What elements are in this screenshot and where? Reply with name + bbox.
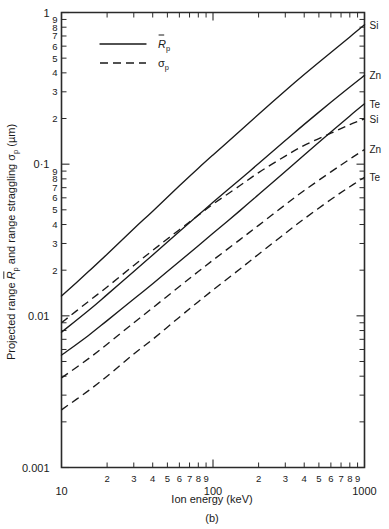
y-tick-label: 5 bbox=[52, 53, 57, 64]
x-tick-label: 3 bbox=[131, 473, 136, 484]
x-tick-label: 4 bbox=[150, 473, 155, 484]
x-tick-label: 6 bbox=[328, 473, 333, 484]
series-label-zn-straggling: Zn bbox=[370, 144, 382, 155]
y-tick-label: 9 bbox=[52, 14, 57, 25]
y-tick-label: 2 bbox=[52, 265, 57, 276]
y-tick-label: 4 bbox=[52, 67, 57, 78]
figure-panel-b: 2345678923456789101001000 23456789234567… bbox=[0, 0, 389, 529]
x-tick-label-major: 1000 bbox=[352, 485, 376, 497]
y-tick-label: 3 bbox=[52, 86, 57, 97]
x-tick-label: 5 bbox=[316, 473, 321, 484]
x-tick-label-major: 10 bbox=[55, 485, 67, 497]
y-tick-label: 5 bbox=[52, 204, 57, 215]
series-label-si-range: Si bbox=[370, 20, 379, 31]
y-tick-label-major: 0.001 bbox=[22, 462, 50, 474]
series-label-zn-range: Zn bbox=[370, 70, 382, 81]
y-tick-label: 6 bbox=[52, 41, 57, 52]
series-label-si-straggling: Si bbox=[370, 114, 379, 125]
y-tick-label: 2 bbox=[52, 113, 57, 124]
y-tick-label: 6 bbox=[52, 192, 57, 203]
x-tick-label: 7 bbox=[338, 473, 343, 484]
y-tick-label: 3 bbox=[52, 238, 57, 249]
x-tick-label: 3 bbox=[283, 473, 288, 484]
series-label-te-straggling: Te bbox=[370, 172, 381, 183]
x-tick-label: 9 bbox=[355, 473, 360, 484]
x-tick-label: 8 bbox=[347, 473, 352, 484]
log-log-chart: 2345678923456789101001000 23456789234567… bbox=[0, 0, 389, 529]
y-tick-label-major: 0·1 bbox=[34, 158, 50, 170]
panel-caption: (b) bbox=[205, 512, 218, 524]
x-axis-title: Ion energy (keV) bbox=[171, 493, 252, 505]
chart-background bbox=[0, 0, 389, 529]
x-tick-label: 7 bbox=[187, 473, 192, 484]
x-tick-label: 6 bbox=[177, 473, 182, 484]
x-tick-label: 2 bbox=[104, 473, 109, 484]
y-tick-label-major: 0.01 bbox=[28, 310, 49, 322]
x-tick-label: 4 bbox=[302, 473, 307, 484]
y-tick-label-major: 1 bbox=[43, 7, 49, 19]
x-tick-label: 2 bbox=[256, 473, 261, 484]
x-tick-label: 5 bbox=[165, 473, 170, 484]
x-tick-label: 8 bbox=[196, 473, 201, 484]
series-label-te-range: Te bbox=[370, 99, 381, 110]
x-tick-label: 9 bbox=[203, 473, 208, 484]
y-tick-label: 9 bbox=[52, 166, 57, 177]
y-tick-label: 4 bbox=[52, 219, 57, 230]
